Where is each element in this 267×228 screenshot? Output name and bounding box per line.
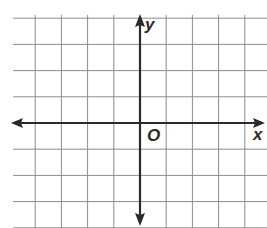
axes bbox=[11, 14, 265, 226]
origin-label: O bbox=[147, 126, 160, 145]
x-axis-label: x bbox=[252, 125, 264, 144]
y-axis-label: y bbox=[144, 15, 156, 34]
coordinate-plane: y x O bbox=[0, 0, 267, 228]
